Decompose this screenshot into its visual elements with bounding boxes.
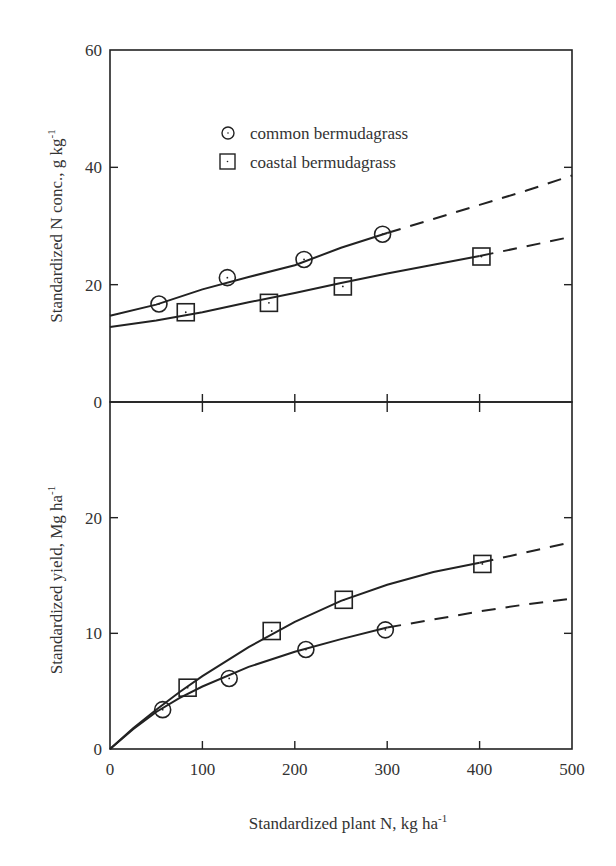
bottom-fit-dashed-circle [387, 599, 572, 628]
legend: common bermudagrass coastal bermudagrass [220, 124, 408, 172]
x-axis-title-text: Standardized plant N, kg ha [249, 814, 439, 833]
top-marker-center-dot [382, 233, 384, 235]
chart-figure: 0204060010200100200300400500 common berm… [0, 0, 616, 866]
bottom-fit-solid-circle [110, 628, 387, 750]
top-marker-center-dot [481, 256, 483, 258]
bottom-fit-solid-square [110, 563, 480, 749]
top-panel-frame [110, 50, 572, 402]
legend-square-dot [227, 161, 229, 163]
bottom-marker-center-dot [228, 678, 230, 680]
bottom-y-tick-label: 20 [85, 509, 102, 528]
legend-label-common: common bermudagrass [250, 124, 408, 143]
top-y-axis-title: Standardized N conc., g kg-1 [45, 129, 66, 322]
bottom-marker-center-dot [271, 630, 273, 632]
top-y-tick-label: 20 [85, 276, 102, 295]
top-marker-center-dot [268, 302, 270, 304]
top-marker-center-dot [158, 303, 160, 305]
bottom-marker-center-dot [384, 629, 386, 631]
top-y-axis-title-text: Standardized N conc., g kg [47, 138, 66, 323]
bottom-y-tick-label: 0 [94, 740, 103, 759]
top-fit-solid-square [110, 256, 480, 327]
axis-ticks [110, 167, 572, 749]
bottom-marker-center-dot [305, 649, 307, 651]
legend-label-coastal: coastal bermudagrass [250, 153, 396, 172]
top-marker-center-dot [342, 286, 344, 288]
x-tick-label: 500 [559, 760, 585, 779]
tick-labels: 0204060010200100200300400500 [85, 41, 585, 779]
top-fit-dashed-square [480, 237, 572, 256]
top-marker-center-dot [303, 259, 305, 261]
fit-lines [110, 176, 572, 750]
top-fit-dashed-circle [387, 176, 572, 234]
x-axis-title-sup: -1 [438, 812, 447, 824]
bottom-marker-center-dot [481, 563, 483, 565]
x-tick-label: 0 [106, 760, 115, 779]
bottom-y-axis-title: Standardized yield, Mg ha-1 [45, 486, 66, 675]
x-axis-title: Standardized plant N, kg ha-1 [249, 812, 447, 833]
x-tick-label: 200 [282, 760, 308, 779]
top-y-tick-label: 60 [85, 41, 102, 60]
top-marker-center-dot [185, 311, 187, 313]
top-y-tick-label: 40 [85, 158, 102, 177]
bottom-marker-center-dot [187, 687, 189, 689]
bottom-marker-center-dot [162, 709, 164, 711]
bottom-y-axis-title-text: Standardized yield, Mg ha [47, 494, 66, 674]
top-marker-center-dot [226, 277, 228, 279]
x-tick-label: 400 [467, 760, 493, 779]
bottom-y-axis-title-sup: -1 [45, 486, 57, 495]
top-y-axis-title-sup: -1 [45, 129, 57, 138]
bottom-marker-center-dot [343, 599, 345, 601]
top-y-tick-label: 0 [94, 393, 103, 412]
x-tick-label: 300 [374, 760, 400, 779]
bottom-fit-dashed-square [480, 542, 572, 563]
legend-circle-dot [227, 132, 229, 134]
x-tick-label: 100 [190, 760, 216, 779]
bottom-y-tick-label: 10 [85, 624, 102, 643]
